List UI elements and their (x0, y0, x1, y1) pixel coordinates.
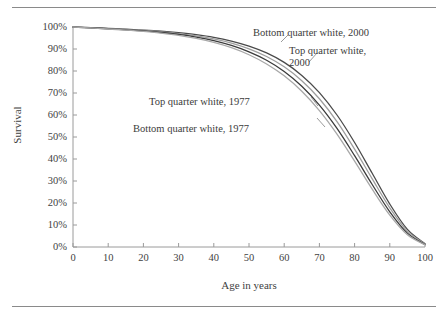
x-tick-label: 70 (302, 253, 336, 264)
y-tick-label: 100% (33, 22, 67, 33)
x-tick-label: 80 (338, 253, 372, 264)
y-axis-title: Survival (11, 85, 23, 165)
y-tick-label: 40% (33, 154, 67, 165)
y-tick-label: 70% (33, 88, 67, 99)
y-tick-label: 0% (33, 242, 67, 253)
axis-lines (73, 27, 425, 247)
y-tick-label: 90% (33, 44, 67, 55)
series-curves (73, 27, 425, 245)
series-curve-1 (73, 27, 425, 244)
series-label-bottom-quarter-white-1977: Bottom quarter white, 1977 (133, 123, 249, 135)
y-tick-label: 30% (33, 176, 67, 187)
x-tick-label: 20 (126, 253, 160, 264)
x-tick-label: 90 (373, 253, 407, 264)
y-tick-label: 20% (33, 198, 67, 209)
y-tick-label: 60% (33, 110, 67, 121)
x-tick-label: 60 (267, 253, 301, 264)
x-tick-label: 10 (91, 253, 125, 264)
x-tick-label: 30 (162, 253, 196, 264)
y-tick-label: 80% (33, 66, 67, 77)
series-curve-2 (73, 27, 425, 245)
series-label-top-quarter-white-2000: Top quarter white,2000 (289, 45, 366, 70)
figure: 100%90%80%70%60%50%40%30%20%10%0% 010203… (0, 0, 446, 317)
series-label-bottom-quarter-white-2000: Bottom quarter white, 2000 (253, 27, 369, 39)
tick-marks (73, 27, 425, 247)
series-curve-3 (73, 27, 425, 245)
x-tick-label: 0 (56, 253, 90, 264)
series-label-top-quarter-white-1977: Top quarter white, 1977 (149, 96, 250, 108)
y-tick-label: 50% (33, 132, 67, 143)
y-tick-label: 10% (33, 220, 67, 231)
x-tick-label: 100 (408, 253, 442, 264)
x-tick-label: 40 (197, 253, 231, 264)
series-label-line-2: 2000 (289, 57, 310, 68)
x-tick-label: 50 (232, 253, 266, 264)
series-label-line-1: Top quarter white, (289, 45, 366, 56)
x-axis-title: Age in years (73, 279, 425, 291)
